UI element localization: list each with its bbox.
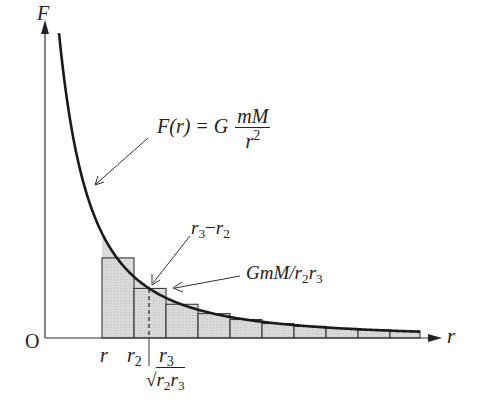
bar-height-label: GmM/r2r3 [246,263,323,285]
tick-label-r2: r2 [127,345,142,369]
tick-label-r3: r3 [159,345,174,369]
interval-width-label: r3−r2 [191,218,230,240]
x-axis-label: r [447,326,455,347]
equation-fraction: mM r2 [235,106,270,151]
equation-numerator: mM [235,106,270,128]
curve-equation: F(r) = G mM r2 [157,106,270,151]
tick-label-r: r [100,345,108,365]
y-axis-label: F [37,3,49,23]
geometric-mean-label: √r2r3 [146,370,185,392]
equation-lhs: F(r) = G [157,115,228,137]
bar-rectangle [102,258,134,338]
x-axis-arrow-icon [428,334,442,342]
equation-denominator: r2 [245,128,260,151]
gravity-work-diagram [0,0,482,410]
origin-label: O [25,331,39,351]
